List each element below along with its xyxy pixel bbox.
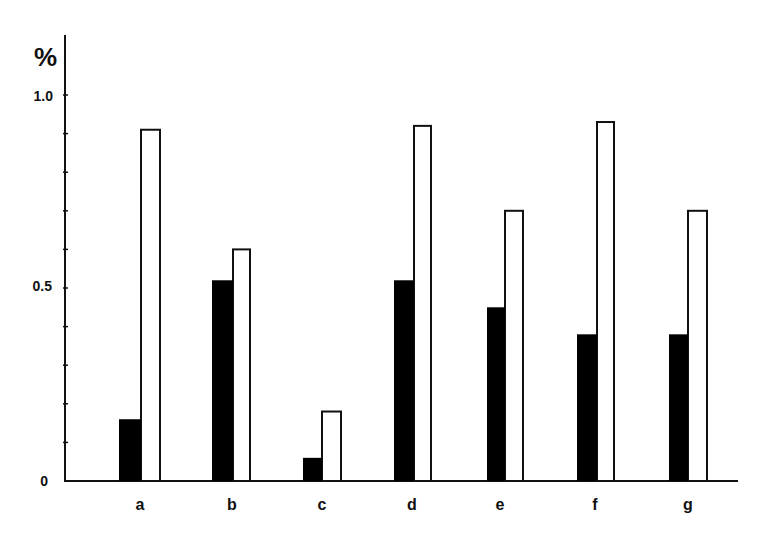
bar-filled-d xyxy=(394,280,414,481)
x-label-f: f xyxy=(580,496,610,514)
y-tick-label-1.0: 1.0 xyxy=(13,88,53,104)
bar-filled-e xyxy=(487,307,505,481)
bar-open-f xyxy=(597,122,614,481)
bar-open-e xyxy=(505,211,523,481)
x-label-d: d xyxy=(397,496,427,514)
x-label-c: c xyxy=(307,496,337,514)
x-label-g: g xyxy=(673,496,703,514)
bar-filled-b xyxy=(212,280,233,481)
x-label-a: a xyxy=(125,496,155,514)
bar-open-g xyxy=(688,211,707,481)
bar-chart xyxy=(0,0,765,536)
bar-open-a xyxy=(141,130,160,481)
x-label-e: e xyxy=(485,496,515,514)
bar-filled-a xyxy=(119,419,141,481)
bar-open-c xyxy=(322,412,341,481)
y-axis-unit-label: % xyxy=(34,42,57,73)
bar-filled-g xyxy=(669,334,688,481)
y-tick-label-0.5: 0.5 xyxy=(12,278,52,294)
bar-filled-c xyxy=(303,458,322,481)
x-label-b: b xyxy=(217,496,247,514)
bar-open-d xyxy=(414,126,431,481)
y-tick-label-0: 0 xyxy=(8,473,48,489)
bar-open-b xyxy=(233,249,250,481)
bar-filled-f xyxy=(577,334,597,481)
bars xyxy=(119,122,707,481)
